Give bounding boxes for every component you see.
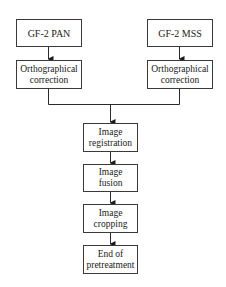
node-label: Orthographical correction bbox=[151, 64, 209, 86]
node-image-cropping: Image cropping bbox=[83, 204, 138, 233]
node-label: GF-2 PAN bbox=[28, 28, 71, 39]
node-ortho-correction-pan: Orthographical correction bbox=[16, 60, 82, 89]
merge-line bbox=[49, 88, 180, 105]
node-label: Orthographical correction bbox=[20, 64, 78, 86]
node-label: Image fusion bbox=[99, 167, 123, 189]
node-image-registration: Image registration bbox=[83, 123, 138, 152]
node-label: Image cropping bbox=[94, 208, 128, 230]
node-label: End of pretreatment bbox=[86, 249, 134, 271]
node-image-fusion: Image fusion bbox=[83, 164, 138, 192]
node-gf2-mss: GF-2 MSS bbox=[147, 19, 213, 47]
node-label: GF-2 MSS bbox=[158, 28, 202, 39]
node-end-of-pretreatment: End of pretreatment bbox=[83, 245, 138, 274]
node-gf2-pan: GF-2 PAN bbox=[16, 19, 82, 47]
node-ortho-correction-mss: Orthographical correction bbox=[147, 60, 213, 89]
node-label: Image registration bbox=[89, 127, 132, 149]
